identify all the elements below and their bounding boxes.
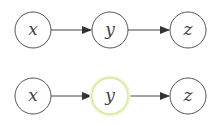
- node-y-highlighted: y: [91, 77, 130, 116]
- node-label-x: x: [28, 19, 38, 39]
- diagram-chain-conditioned: x y z: [15, 77, 206, 116]
- node-label-y: y: [104, 85, 115, 105]
- causal-chain-diagrams: x y z x y z: [0, 0, 222, 126]
- node-label-z: z: [183, 85, 194, 105]
- node-label-z: z: [183, 19, 194, 39]
- diagram-chain-plain: x y z: [15, 12, 206, 48]
- node-label-x: x: [28, 85, 38, 105]
- node-y: y: [92, 12, 128, 48]
- node-z: z: [170, 12, 206, 48]
- node-x: x: [15, 12, 51, 48]
- node-x: x: [15, 78, 51, 114]
- node-z: z: [170, 78, 206, 114]
- node-label-y: y: [104, 19, 115, 39]
